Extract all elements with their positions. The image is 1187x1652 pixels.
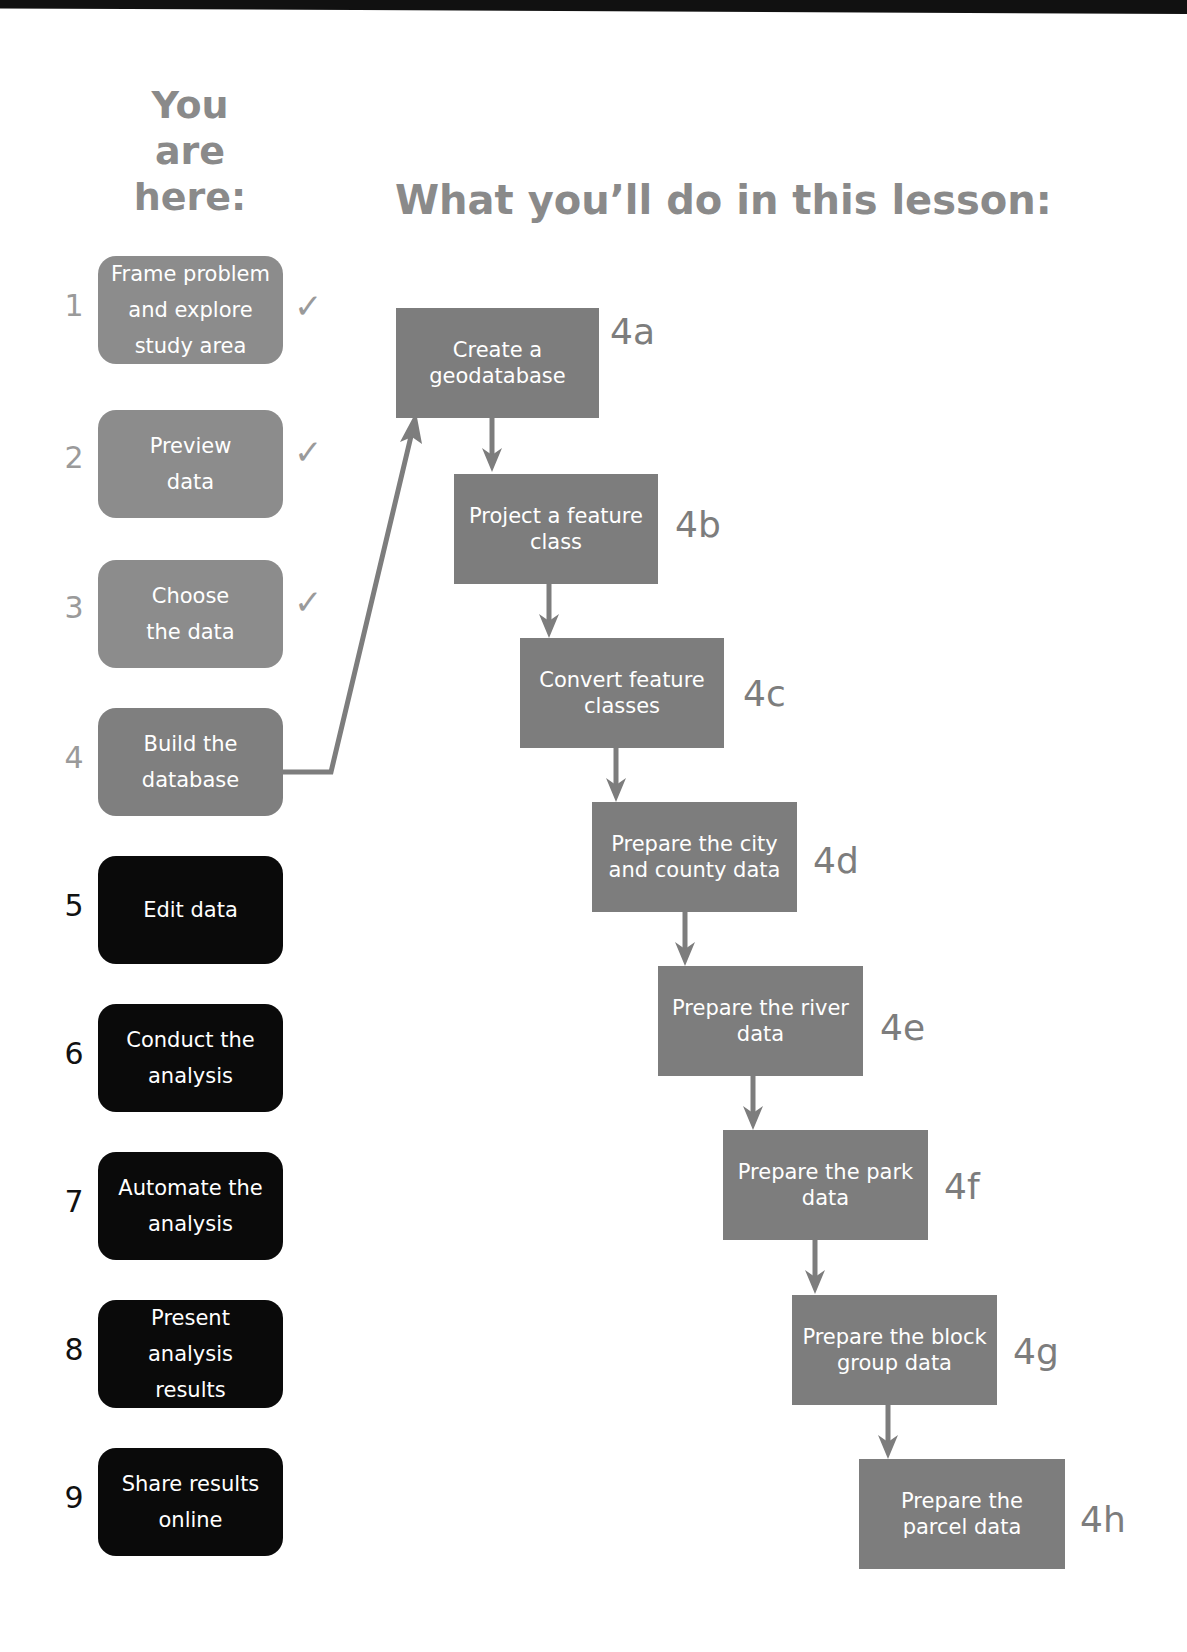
flow-step-id: 4a [610, 312, 655, 352]
flow-step-id: 4d [813, 841, 859, 881]
flow-step-city-county-data[interactable]: Prepare the city and county data [592, 802, 797, 912]
flow-step-river-data[interactable]: Prepare the river data [658, 966, 863, 1076]
flow-step-block-group-data[interactable]: Prepare the block group data [792, 1295, 997, 1405]
flow-step-id: 4e [880, 1008, 925, 1048]
link-line [283, 432, 412, 772]
flow-step-id: 4h [1080, 1500, 1126, 1540]
flow-step-id: 4b [675, 505, 721, 545]
flow-step-project-feature-class[interactable]: Project a feature class [454, 474, 658, 584]
flow-step-parcel-data[interactable]: Prepare the parcel data [859, 1459, 1065, 1569]
flow-step-id: 4g [1013, 1332, 1059, 1372]
flow-step-create-geodatabase[interactable]: Create a geodatabase [396, 308, 599, 418]
flow-step-park-data[interactable]: Prepare the park data [723, 1130, 928, 1240]
flow-step-id: 4c [743, 674, 786, 714]
flow-step-convert-feature-classes[interactable]: Convert feature classes [520, 638, 724, 748]
flow-step-id: 4f [944, 1167, 980, 1207]
